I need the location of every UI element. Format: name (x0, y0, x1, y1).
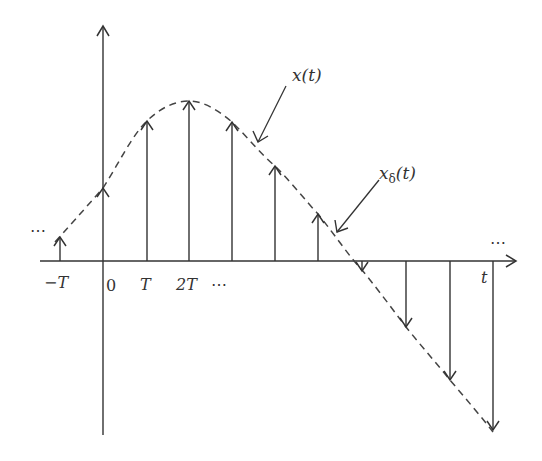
x-delta-pointer (335, 180, 379, 232)
tick-2T: 2T (175, 275, 198, 294)
ellipsis-right: ⋯ (490, 233, 506, 252)
tick-zero: 0 (106, 276, 116, 295)
signal-curve-x-t (55, 101, 493, 432)
vertical-axis (97, 26, 109, 435)
x-t-pointer (253, 86, 286, 142)
sampling-diagram: x(t) xδ(t) t −T 0 T 2T ⋯ ⋯ ⋯ (0, 0, 542, 461)
label-x-t: x(t) (292, 65, 322, 85)
label-x-delta-t: xδ(t) (379, 163, 416, 186)
label-t-axis: t (481, 268, 488, 287)
tick-ellipsis: ⋯ (211, 275, 227, 294)
impulse-train (54, 101, 499, 430)
ellipsis-left: ⋯ (30, 221, 46, 240)
tick-minus-T: −T (44, 273, 69, 292)
tick-T: T (140, 275, 152, 294)
horizontal-axis (40, 255, 516, 267)
